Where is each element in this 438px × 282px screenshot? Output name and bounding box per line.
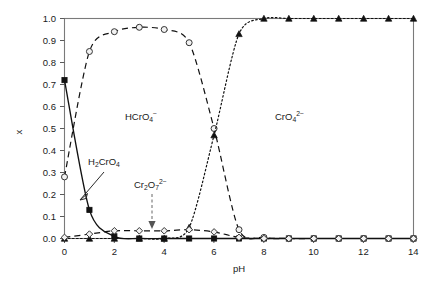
y-axis-ticks — [60, 19, 65, 239]
x-tick-label: 4 — [161, 246, 166, 257]
data-point — [161, 228, 168, 235]
x-tick-label: 12 — [358, 246, 369, 257]
hcro4-sub: 4 — [149, 116, 153, 123]
series-cro42 — [61, 15, 416, 241]
y-axis-tick-labels: 1.0 0.9 0.8 0.7 0.6 0.5 0.4 0.3 0.2 0.1 … — [43, 13, 56, 244]
data-point — [111, 228, 118, 235]
cro4-base: CrO — [275, 111, 292, 122]
hcro4-label: HCrO4− — [125, 110, 157, 123]
y-tick-label: 0.7 — [43, 79, 56, 90]
data-point — [111, 29, 117, 35]
x-axis-tick-labels: 0 2 4 6 8 10 12 14 — [62, 246, 419, 257]
cro4-sub: 4 — [292, 116, 296, 123]
cr2o7-annotation: Cr2O72− — [134, 178, 167, 229]
data-point — [186, 40, 192, 46]
y-axis-title: x — [13, 129, 24, 134]
series-layer — [61, 15, 417, 242]
data-point — [211, 229, 218, 236]
data-point — [87, 207, 92, 212]
series-line — [65, 27, 414, 239]
x-tick-label: 0 — [62, 246, 67, 257]
y-tick-label: 0.5 — [43, 123, 56, 134]
data-point — [86, 49, 92, 55]
y-tick-label: 0.6 — [43, 101, 56, 112]
y-tick-label: 0.0 — [43, 233, 56, 244]
x-tick-label: 6 — [211, 246, 216, 257]
cr2o7-sup: 2− — [159, 178, 167, 185]
h2cro4-annotation: H2CrO4 — [80, 156, 120, 200]
y-tick-label: 0.3 — [43, 167, 56, 178]
data-point — [62, 174, 68, 180]
cr2o7-sub2: 7 — [155, 184, 159, 191]
data-point — [187, 236, 192, 241]
data-point — [161, 27, 167, 33]
x-tick-label: 8 — [261, 246, 266, 257]
series-hcro4 — [62, 24, 417, 241]
data-point — [62, 78, 67, 83]
y-tick-label: 0.2 — [43, 189, 56, 200]
h2cro4-sub2: 4 — [116, 161, 120, 168]
series-line — [65, 18, 414, 240]
plot-frame — [65, 19, 414, 239]
y-tick-label: 0.8 — [43, 57, 56, 68]
cr2o7-base: Cr — [134, 179, 144, 190]
cr2o7-mid: O — [148, 179, 155, 190]
data-point — [211, 132, 217, 138]
data-point — [86, 231, 93, 238]
cro4-sup: 2− — [296, 110, 304, 117]
data-point — [236, 227, 242, 233]
x-tick-label: 14 — [408, 246, 419, 257]
y-tick-label: 1.0 — [43, 13, 56, 24]
speciation-chart: 1.0 0.9 0.8 0.7 0.6 0.5 0.4 0.3 0.2 0.1 … — [0, 0, 438, 282]
data-point — [136, 228, 143, 235]
cro4-label: CrO42− — [275, 110, 304, 123]
data-point — [211, 236, 216, 241]
hcro4-base: HCrO — [125, 111, 149, 122]
h2cro4-label: H2CrO4 — [88, 156, 120, 168]
h2cro4-mid: CrO — [99, 156, 116, 167]
y-tick-label: 0.4 — [43, 145, 56, 156]
hcro4-sup: − — [153, 110, 157, 117]
x-tick-label: 10 — [308, 246, 319, 257]
series-line — [65, 80, 414, 239]
y-tick-label: 0.9 — [43, 35, 56, 46]
y-tick-label: 0.1 — [43, 211, 56, 222]
data-point — [136, 24, 142, 30]
data-point — [236, 31, 242, 37]
cr2o7-label: Cr2O72− — [134, 178, 167, 191]
x-axis-title: pH — [233, 263, 245, 274]
x-tick-label: 2 — [112, 246, 117, 257]
chart-svg: 1.0 0.9 0.8 0.7 0.6 0.5 0.4 0.3 0.2 0.1 … — [0, 0, 438, 282]
